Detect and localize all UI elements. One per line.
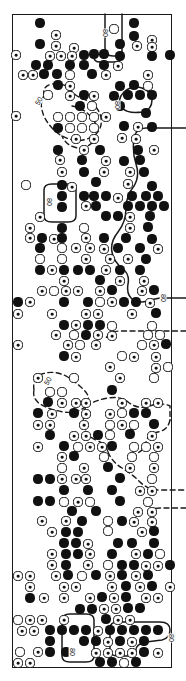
contour-label-80-c7: 80 [68, 648, 75, 657]
contour-label-80-c1: 80 [101, 29, 108, 38]
contour-label-layer: 8080508080508080 [0, 0, 186, 681]
contour-label-50-c6: 50 [43, 375, 54, 386]
contour-label-50-c3: 50 [34, 95, 45, 106]
contour-label-80-c5: 80 [159, 294, 166, 303]
contour-label-80-c8: 80 [167, 634, 174, 643]
distribution-map: 8080508080508080 [0, 0, 186, 681]
contour-label-80-c4: 80 [45, 198, 52, 207]
contour-label-80-c2: 80 [113, 101, 120, 110]
